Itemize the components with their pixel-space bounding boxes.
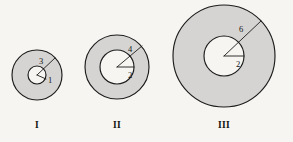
panel-III-outer-radius-label: 6 [239, 24, 243, 34]
panel-I-inner-radius-label: 1 [48, 75, 52, 85]
figure-panel-III: 6 2 III [173, 5, 275, 130]
panel-II-inner-radius-label: 2 [128, 70, 132, 80]
figure-panel-II: 4 2 II [85, 35, 149, 130]
annulus-figure-diagram: 3 1 I 4 2 II 6 2 III [0, 0, 293, 142]
panel-I-outer-radius-label: 3 [39, 56, 43, 66]
panel-I-caption: I [35, 120, 39, 130]
panel-II-caption: II [113, 120, 121, 130]
figure-panel-I: 3 1 I [12, 50, 62, 130]
panel-III-caption: III [218, 120, 230, 130]
panel-III-inner-radius-label: 2 [236, 59, 240, 69]
